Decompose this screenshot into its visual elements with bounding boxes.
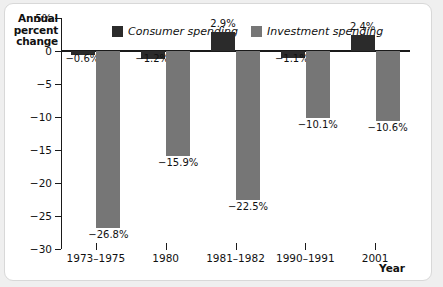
bar-value-label: −1.2% xyxy=(135,53,169,64)
y-axis-tick-label: −25 xyxy=(30,210,52,222)
y-axis-tick xyxy=(55,51,61,52)
x-axis-tick xyxy=(236,243,237,250)
x-axis-tick xyxy=(305,243,306,250)
bar-value-label: −15.9% xyxy=(158,157,198,168)
bar-investment-spending xyxy=(306,51,330,118)
y-axis-tick xyxy=(55,84,61,85)
y-axis-tick xyxy=(55,183,61,184)
x-axis-tick xyxy=(166,243,167,250)
bar-value-label: −10.1% xyxy=(298,119,338,130)
y-axis-tick-label: −5 xyxy=(37,78,52,90)
y-axis-tick xyxy=(55,18,61,19)
bar-value-label: −1.1% xyxy=(275,53,309,64)
x-axis-tick xyxy=(375,243,376,250)
y-axis-tick-label: −15 xyxy=(30,144,52,156)
x-axis-tick-label: 1980 xyxy=(152,252,179,264)
bar-value-label: −26.8% xyxy=(88,229,128,240)
bar-value-label: 2.9% xyxy=(210,18,235,29)
bar-investment-spending xyxy=(96,51,120,228)
bar-investment-spending xyxy=(376,51,400,121)
x-axis-title: Year xyxy=(379,262,405,274)
y-axis-tick xyxy=(55,216,61,217)
y-axis-tick xyxy=(55,150,61,151)
x-axis-tick xyxy=(96,243,97,250)
y-axis-tick-label: 0 xyxy=(45,45,52,57)
bar-consumer-spending xyxy=(211,32,235,51)
bar-value-label: −10.6% xyxy=(368,122,408,133)
y-axis-tick-label: 5% xyxy=(35,12,52,24)
y-axis-line xyxy=(61,18,62,249)
y-axis-tick xyxy=(55,249,61,250)
bar-value-label: −0.6% xyxy=(65,53,99,64)
y-axis-tick-label: −20 xyxy=(30,177,52,189)
x-axis-tick-label: 1981–1982 xyxy=(206,252,265,264)
bar-investment-spending xyxy=(236,51,260,200)
y-axis-tick-label: −10 xyxy=(30,111,52,123)
bar-value-label: 2.4% xyxy=(350,21,375,32)
y-axis-tick xyxy=(55,117,61,118)
bar-value-label: −22.5% xyxy=(228,201,268,212)
x-axis-tick-label: 1990–1991 xyxy=(276,252,335,264)
bar-investment-spending xyxy=(166,51,190,156)
plot-area: 5%0−5−10−15−20−25−301973–1975−0.6%−26.8%… xyxy=(61,18,410,249)
bar-consumer-spending xyxy=(351,35,375,51)
y-axis-tick-label: −30 xyxy=(30,243,52,255)
x-axis-tick-label: 1973–1975 xyxy=(67,252,126,264)
chart-figure: Annual percent change Consumer spending … xyxy=(0,0,443,287)
